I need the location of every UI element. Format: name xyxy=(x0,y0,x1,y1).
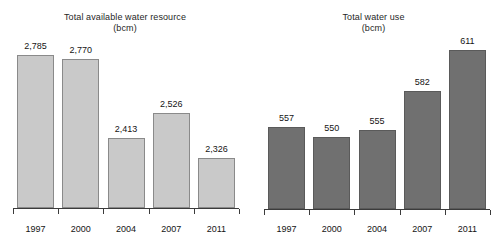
x-axis-tick xyxy=(194,209,195,214)
bar-value-label: 557 xyxy=(258,113,315,123)
plot-area-water-use: 55719975502000555200458220076112011 xyxy=(250,0,497,251)
bar-value-label: 582 xyxy=(394,77,451,87)
x-axis-end-cap xyxy=(13,209,14,214)
bar xyxy=(268,127,305,209)
chart-panel-water-use: Total water use (bcm) 557199755020005552… xyxy=(250,0,497,251)
x-axis-tick xyxy=(400,210,401,215)
bar xyxy=(17,55,54,208)
x-axis-tick-label: 2011 xyxy=(445,224,490,234)
bar xyxy=(449,50,486,209)
bar-value-label: 2,326 xyxy=(188,144,245,154)
x-axis-tick-label: 2011 xyxy=(194,224,239,234)
bar xyxy=(359,130,396,209)
plot-area-available-water: 2,78519972,77020002,41320042,52620072,32… xyxy=(0,0,250,251)
x-axis-tick-label: 2004 xyxy=(103,224,148,234)
x-axis-tick-label: 1997 xyxy=(264,224,309,234)
x-axis-end-cap xyxy=(490,210,491,215)
x-axis-tick-label: 1997 xyxy=(13,224,58,234)
bar-value-label: 2,413 xyxy=(97,124,154,134)
bar xyxy=(404,91,441,209)
chart-panel-available-water: Total available water resource (bcm) 2,7… xyxy=(0,0,250,251)
bar-value-label: 2,770 xyxy=(52,45,109,55)
x-axis-tick xyxy=(354,210,355,215)
bar-value-label: 2,526 xyxy=(143,99,200,109)
bar xyxy=(62,59,99,208)
bar-value-label: 611 xyxy=(439,36,496,46)
x-axis-tick xyxy=(309,210,310,215)
x-axis-tick-label: 2000 xyxy=(58,224,103,234)
bar xyxy=(313,137,350,209)
x-axis-tick xyxy=(149,209,150,214)
bar xyxy=(153,113,190,208)
x-axis-tick xyxy=(445,210,446,215)
x-axis-tick-label: 2004 xyxy=(354,224,399,234)
x-axis-line xyxy=(264,209,490,210)
x-axis-end-cap xyxy=(264,210,265,215)
figure-root: Total available water resource (bcm) 2,7… xyxy=(0,0,497,251)
x-axis-tick-label: 2000 xyxy=(309,224,354,234)
x-axis-tick-label: 2007 xyxy=(149,224,194,234)
x-axis-tick xyxy=(103,209,104,214)
bar xyxy=(198,158,235,208)
x-axis-tick-label: 2007 xyxy=(400,224,445,234)
bar xyxy=(108,138,145,208)
x-axis-line xyxy=(13,208,239,209)
bar-value-label: 555 xyxy=(348,116,405,126)
x-axis-end-cap xyxy=(239,209,240,214)
x-axis-tick xyxy=(58,209,59,214)
